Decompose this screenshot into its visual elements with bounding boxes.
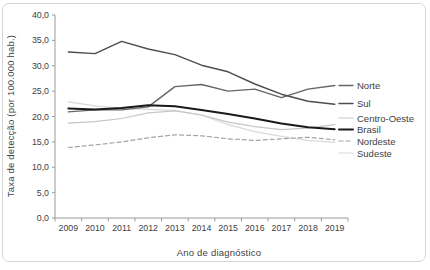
legend-label-sul: Sul bbox=[357, 98, 371, 109]
detection-rate-line-chart: Taxa de detecção (por 100.000 hab.) Ano … bbox=[0, 0, 430, 270]
x-tick-label: 2015 bbox=[218, 223, 238, 233]
legend-label-nordeste: Nordeste bbox=[357, 136, 396, 147]
series-line-centro-oeste bbox=[68, 111, 334, 130]
x-tick-label: 2010 bbox=[85, 223, 105, 233]
x-tick-label: 2017 bbox=[272, 223, 292, 233]
series-line-brasil bbox=[68, 105, 334, 129]
series-line-sul bbox=[68, 41, 334, 104]
x-axis-title: Ano de diagnóstico bbox=[177, 247, 261, 258]
y-tick-label: 5,0 bbox=[37, 188, 49, 198]
y-tick-label: 20,0 bbox=[32, 112, 49, 122]
x-tick-label: 2016 bbox=[245, 223, 265, 233]
x-tick-label: 2009 bbox=[59, 223, 79, 233]
y-axis-title: Taxa de detecção (por 100.000 hab.) bbox=[5, 35, 16, 197]
y-tick-label: 40,0 bbox=[32, 10, 49, 20]
y-tick-label: 25,0 bbox=[32, 86, 49, 96]
legend-label-brasil: Brasil bbox=[357, 124, 381, 135]
x-tick-label: 2018 bbox=[298, 223, 318, 233]
legend-label-norte: Norte bbox=[357, 80, 380, 91]
plot-area: 0,05,010,015,020,025,030,035,040,0200920… bbox=[32, 10, 414, 233]
y-tick-label: 0,0 bbox=[37, 213, 49, 223]
legend-label-sudeste: Sudeste bbox=[357, 148, 392, 159]
y-tick-label: 15,0 bbox=[32, 137, 49, 147]
x-tick-label: 2013 bbox=[165, 223, 185, 233]
x-tick-label: 2012 bbox=[138, 223, 158, 233]
chart-figure: Taxa de detecção (por 100.000 hab.) Ano … bbox=[0, 0, 430, 270]
x-tick-label: 2011 bbox=[112, 223, 131, 233]
y-tick-label: 30,0 bbox=[32, 61, 49, 71]
series-line-nordeste bbox=[68, 135, 334, 148]
y-tick-label: 10,0 bbox=[32, 162, 49, 172]
x-tick-label: 2014 bbox=[192, 223, 212, 233]
x-tick-label: 2019 bbox=[325, 223, 345, 233]
legend-label-centro-oeste: Centro-Oeste bbox=[357, 113, 414, 124]
y-tick-label: 35,0 bbox=[32, 35, 49, 45]
